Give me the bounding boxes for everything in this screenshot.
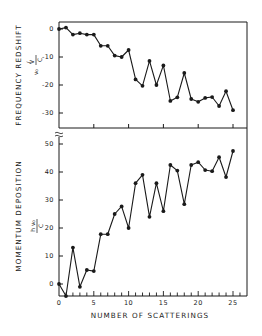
data-point-marker (120, 205, 124, 209)
bottom-panel-y-ticks: 01020304050 (45, 140, 63, 288)
data-point-marker (92, 33, 96, 37)
data-point-marker (231, 149, 235, 153)
x-tick-label: 5 (91, 299, 96, 307)
data-point-marker (155, 181, 159, 185)
data-point-marker (196, 100, 200, 104)
data-point-marker (106, 232, 110, 236)
y-tick-label: -20 (42, 81, 54, 89)
data-point-marker (231, 108, 235, 112)
data-point-marker (155, 83, 159, 87)
data-point-marker (210, 169, 214, 173)
bottom-panel-ylabel: MOMENTUM DEPOSITION (14, 160, 23, 271)
data-point-marker (99, 232, 103, 236)
data-point-marker (148, 215, 152, 219)
data-point-marker (85, 33, 89, 37)
y-tick-label: 50 (45, 140, 54, 148)
data-point-marker (127, 48, 131, 52)
data-point-marker (85, 268, 89, 272)
data-point-marker (182, 202, 186, 206)
x-tick-label: 15 (159, 299, 168, 307)
data-point-marker (134, 78, 138, 82)
y-tick-label: -10 (42, 53, 54, 61)
data-point-marker (78, 285, 82, 289)
x-tick-label: 0 (57, 299, 62, 307)
y-tick-label: 10 (45, 252, 54, 260)
data-point-marker (203, 168, 207, 172)
data-point-marker (71, 246, 75, 250)
y-tick-label: 40 (45, 168, 54, 176)
data-point-marker (57, 27, 61, 31)
top-panel-ylabel: FREQUENCY REDSHIFT (14, 24, 23, 125)
bottom-panel-series (57, 149, 235, 298)
data-point-marker (182, 71, 186, 75)
x-tick-label: 20 (194, 299, 203, 307)
bottom-panel-ylabel-group: MOMENTUM DEPOSITION (14, 160, 23, 271)
data-point-marker (127, 226, 131, 230)
data-point-marker (141, 173, 145, 177)
data-point-marker (217, 104, 221, 108)
bottom-panel-unit-group: h ν₀ C (29, 219, 44, 233)
data-point-marker (175, 95, 179, 99)
top-panel-unit-denominator: C (36, 58, 43, 62)
y-tick-label: 0 (49, 25, 54, 33)
top-panel-unit-prefix: ν₀ (32, 69, 39, 75)
data-point-marker (148, 59, 152, 63)
data-point-marker (162, 209, 166, 213)
data-point-marker (162, 64, 166, 68)
data-point-marker (224, 175, 228, 179)
data-point-marker (113, 212, 117, 216)
axis-break-icon (55, 132, 63, 137)
data-point-marker (64, 26, 68, 30)
data-point-marker (71, 33, 75, 37)
series-line (59, 151, 233, 296)
x-axis-title: NUMBER OF SCATTERINGS (91, 311, 210, 320)
data-point-marker (92, 269, 96, 273)
data-point-marker (224, 89, 228, 93)
x-tick-label: 25 (228, 299, 237, 307)
y-tick-label: 20 (45, 224, 54, 232)
data-point-marker (57, 282, 61, 286)
data-point-marker (168, 163, 172, 167)
data-point-marker (113, 54, 117, 58)
data-point-marker (78, 31, 82, 35)
bottom-panel-x-ticks: 0510152025 (57, 291, 240, 307)
y-tick-label: 0 (49, 280, 54, 288)
data-point-marker (106, 44, 110, 48)
data-point-marker (141, 84, 145, 88)
data-point-marker (175, 169, 179, 173)
x-tick-label: 10 (124, 299, 133, 307)
top-panel-unit-numerator: V (28, 59, 35, 64)
data-point-marker (168, 99, 172, 103)
data-point-marker (120, 55, 124, 59)
top-panel-y-ticks: 0-10-20-30 (42, 25, 63, 117)
chart-canvas: 0-10-20-30 FREQUENCY REDSHIFT ( ν₀ V C 0… (0, 0, 262, 336)
y-tick-label: -30 (42, 109, 54, 117)
data-point-marker (196, 160, 200, 164)
y-tick-label: 30 (45, 196, 54, 204)
data-point-marker (189, 163, 193, 167)
data-point-marker (64, 294, 68, 298)
top-panel-ylabel-group: FREQUENCY REDSHIFT (14, 24, 23, 125)
top-panel-x-ticks (94, 124, 233, 128)
top-panel-series (57, 26, 235, 112)
data-point-marker (217, 155, 221, 159)
data-point-marker (203, 96, 207, 100)
data-point-marker (99, 44, 103, 48)
top-panel-unit-group: ( ν₀ V C (25, 55, 43, 75)
data-point-marker (210, 95, 214, 99)
bottom-panel-unit-numerator: h ν₀ (29, 220, 36, 232)
figure: 0-10-20-30 FREQUENCY REDSHIFT ( ν₀ V C 0… (0, 0, 262, 336)
data-point-marker (189, 97, 193, 101)
bottom-panel-unit-denominator: C (37, 224, 44, 228)
data-point-marker (134, 181, 138, 185)
